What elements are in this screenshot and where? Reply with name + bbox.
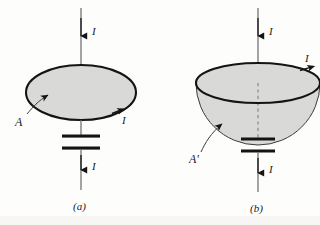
loop-current-label-a: I: [121, 114, 127, 126]
area-label-b: A': [188, 152, 199, 166]
panel-b: I I A' I (b): [188, 8, 320, 215]
loop-current-label-b: I: [304, 52, 310, 64]
current-label-top-b: I: [268, 25, 274, 37]
panel-caption-a: (a): [73, 200, 86, 213]
figure-container: I I A I (a): [0, 0, 320, 225]
page-edge-artifact: [0, 216, 320, 225]
area-label-a: A: [14, 115, 23, 129]
current-label-bottom-a: I: [91, 160, 97, 172]
current-label-top: I: [91, 25, 97, 37]
current-label-bottom-b: I: [268, 163, 274, 175]
capacitor-top-plate-a: [62, 135, 100, 138]
physics-figure: I I A I (a): [0, 0, 320, 225]
capacitor-top-plate-b: [241, 138, 275, 141]
panel-caption-b: (b): [250, 202, 263, 215]
panel-a: I I A I (a): [14, 8, 136, 213]
